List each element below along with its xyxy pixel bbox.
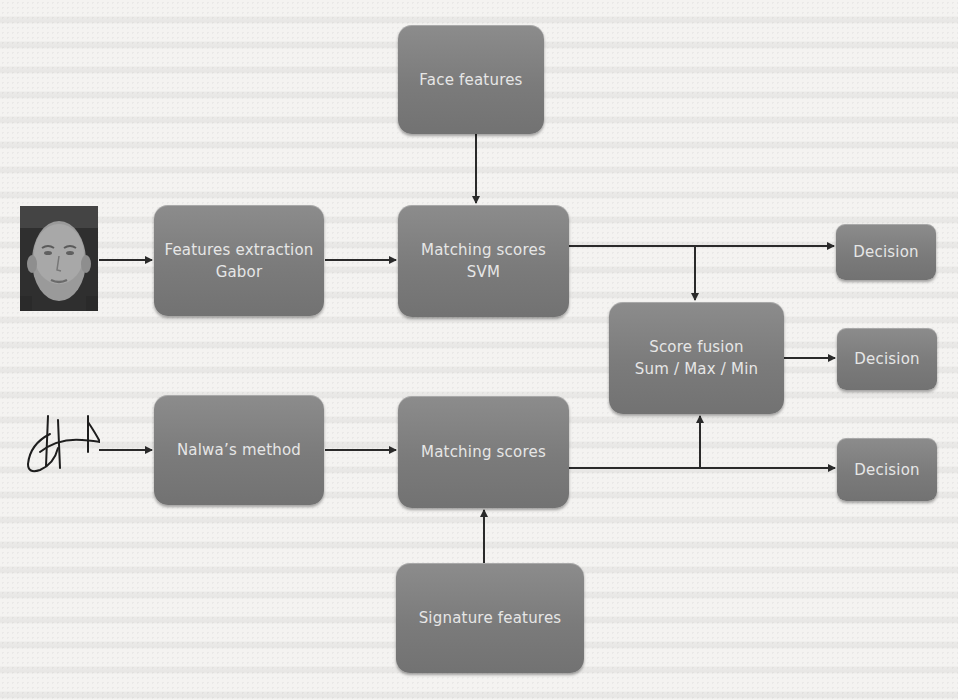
matching-scores-svm-node: Matching scores SVM [398,205,569,317]
matching-scores-label: Matching scores [421,441,546,463]
face-icon [20,206,98,311]
decision-fusion-label: Decision [854,348,919,370]
matching-scores-node: Matching scores [398,396,569,508]
decision-signature-node: Decision [837,438,937,501]
matching-scores-svm-label: Matching scores [421,239,546,261]
signature-image [18,408,100,476]
features-extraction-gabor-node: Features extraction Gabor [154,205,324,316]
fusion-rules-label: Sum / Max / Min [635,358,758,380]
decision-signature-label: Decision [854,459,919,481]
gabor-label: Gabor [216,261,263,283]
features-extraction-label: Features extraction [164,239,313,261]
signature-features-label: Signature features [419,607,562,629]
face-photo-image [20,206,98,311]
decision-face-node: Decision [836,224,936,280]
score-fusion-node: Score fusion Sum / Max / Min [609,302,784,414]
signature-icon [18,408,100,476]
decision-face-label: Decision [853,241,918,263]
svm-label: SVM [467,261,500,283]
decision-fusion-node: Decision [837,328,937,390]
nalwa-method-node: Nalwa’s method [154,395,324,505]
face-features-node: Face features [398,25,544,134]
nalwa-method-label: Nalwa’s method [177,439,301,461]
score-fusion-label: Score fusion [649,336,744,358]
signature-features-node: Signature features [396,563,584,673]
face-features-label: Face features [419,69,522,91]
